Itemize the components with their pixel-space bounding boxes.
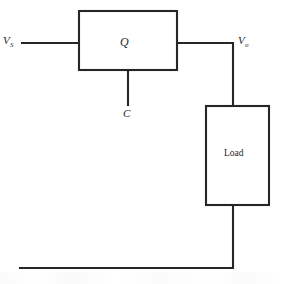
- circuit-diagram: VS Q C Vo Load: [0, 0, 281, 284]
- label-output-voltage: Vo: [238, 35, 248, 46]
- label-output-voltage-base: V: [238, 34, 245, 46]
- label-source-voltage-base: V: [3, 34, 10, 46]
- wire-return-ground: [20, 205, 233, 268]
- label-output-voltage-subscript: o: [245, 41, 249, 49]
- label-block-load: Load: [224, 149, 244, 159]
- label-block-q: Q: [120, 36, 129, 48]
- label-control-terminal: C: [123, 108, 130, 119]
- wire-output-to-load: [177, 43, 233, 106]
- label-source-voltage-subscript: S: [10, 41, 14, 49]
- label-source-voltage: VS: [3, 35, 13, 46]
